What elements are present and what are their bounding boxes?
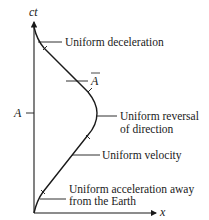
event-a-bar-label: A bbox=[90, 74, 99, 88]
deceleration-label: Uniform deceleration bbox=[65, 36, 164, 48]
acceleration-label-line2: from the Earth bbox=[69, 195, 136, 207]
ct-axis-label: ct bbox=[29, 5, 38, 19]
velocity-label: Uniform velocity bbox=[102, 149, 182, 162]
spacetime-diagram: ct x A Uniform deceleration A Uniform re… bbox=[0, 0, 209, 220]
reversal-label-line2: of direction bbox=[120, 123, 174, 135]
reversal-label-line1: Uniform reversal bbox=[120, 110, 199, 122]
x-axis-label: x bbox=[159, 205, 166, 219]
worldline-ticks bbox=[41, 46, 92, 194]
event-a-label: A bbox=[13, 106, 22, 120]
